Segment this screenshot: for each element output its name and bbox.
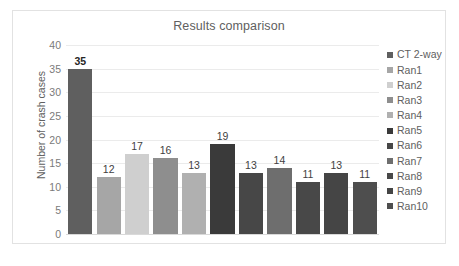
bar-slot: 13	[324, 45, 348, 234]
legend-swatch-icon	[387, 158, 393, 164]
legend-item-label: Ran2	[397, 80, 422, 91]
bar[interactable]	[267, 168, 291, 234]
legend-swatch-icon	[387, 97, 393, 103]
bar-value-label: 19	[217, 130, 229, 142]
y-axis-tick-label: 15	[49, 157, 61, 169]
bar-slot: 13	[239, 45, 263, 234]
bar[interactable]	[239, 173, 263, 234]
bar-slot: 35	[68, 45, 92, 234]
y-axis-tick-label: 0	[55, 228, 61, 240]
legend-item-label: Ran10	[397, 201, 428, 212]
legend-swatch-icon	[387, 188, 393, 194]
bar-slot: 16	[153, 45, 177, 234]
bar[interactable]	[182, 173, 206, 234]
bar-value-label: 13	[245, 159, 257, 171]
legend-item-label: Ran5	[397, 125, 422, 136]
legend-item[interactable]: Ran6	[387, 138, 443, 153]
legend-item[interactable]: Ran10	[387, 199, 443, 214]
legend-swatch-icon	[387, 112, 393, 118]
chart-container: Results comparison Number of crash cases…	[12, 10, 446, 244]
bar[interactable]	[153, 158, 177, 234]
legend-swatch-icon	[387, 82, 393, 88]
legend-item-label: Ran8	[397, 171, 422, 182]
legend-swatch-icon	[387, 143, 393, 149]
bar[interactable]	[210, 144, 234, 234]
legend-item-label: Ran3	[397, 95, 422, 106]
y-axis-tick-label: 5	[55, 204, 61, 216]
legend-item[interactable]: CT 2-way	[387, 47, 443, 62]
legend-item-label: CT 2-way	[397, 49, 442, 60]
bar-value-label: 13	[188, 159, 200, 171]
legend-item[interactable]: Ran9	[387, 184, 443, 199]
y-axis-tick-label: 40	[49, 39, 61, 51]
legend-item[interactable]: Ran3	[387, 93, 443, 108]
legend-item-label: Ran6	[397, 140, 422, 151]
bar-slot: 11	[296, 45, 320, 234]
bar-series: 3512171613191314111311	[66, 45, 379, 234]
bar-slot: 12	[97, 45, 121, 234]
legend-item-label: Ran1	[397, 65, 422, 76]
legend-item-label: Ran7	[397, 156, 422, 167]
legend-swatch-icon	[387, 203, 393, 209]
bar-value-label: 16	[160, 144, 172, 156]
legend-swatch-icon	[387, 128, 393, 134]
y-axis-tick-label: 35	[49, 63, 61, 75]
plot-area: 4035302520151050 3512171613191314111311	[66, 45, 379, 234]
bar[interactable]	[324, 173, 348, 234]
legend-item[interactable]: Ran2	[387, 77, 443, 92]
legend-item[interactable]: Ran8	[387, 169, 443, 184]
bar[interactable]	[97, 177, 121, 234]
legend-item-label: Ran4	[397, 110, 422, 121]
legend-item[interactable]: Ran4	[387, 108, 443, 123]
bar-value-label: 11	[359, 168, 370, 180]
legend-item[interactable]: Ran1	[387, 62, 443, 77]
axis-baseline	[66, 234, 379, 235]
bar-slot: 14	[267, 45, 291, 234]
bar[interactable]	[68, 69, 92, 234]
bar-value-label: 35	[74, 55, 86, 67]
bar-value-label: 11	[302, 168, 313, 180]
chart-title: Results comparison	[13, 19, 445, 33]
y-axis-title: Number of crash cases	[35, 45, 47, 205]
bar-value-label: 13	[330, 159, 342, 171]
bar-slot: 13	[182, 45, 206, 234]
legend-item[interactable]: Ran7	[387, 153, 443, 168]
legend-swatch-icon	[387, 52, 393, 58]
bar[interactable]	[353, 182, 377, 234]
y-axis-tick-label: 10	[49, 181, 61, 193]
bar[interactable]	[125, 154, 149, 234]
bar-value-label: 12	[103, 163, 115, 175]
bar[interactable]	[296, 182, 320, 234]
legend-item[interactable]: Ran5	[387, 123, 443, 138]
bar-slot: 11	[353, 45, 377, 234]
bar-slot: 19	[210, 45, 234, 234]
legend-item-label: Ran9	[397, 186, 422, 197]
chart-legend: CT 2-wayRan1Ran2Ran3Ran4Ran5Ran6Ran7Ran8…	[387, 47, 443, 214]
bar-slot: 17	[125, 45, 149, 234]
y-axis-tick-label: 20	[49, 134, 61, 146]
legend-swatch-icon	[387, 67, 393, 73]
y-axis-tick-label: 25	[49, 110, 61, 122]
legend-swatch-icon	[387, 173, 393, 179]
bar-value-label: 17	[131, 140, 143, 152]
bar-value-label: 14	[274, 154, 286, 166]
y-axis-tick-label: 30	[49, 86, 61, 98]
